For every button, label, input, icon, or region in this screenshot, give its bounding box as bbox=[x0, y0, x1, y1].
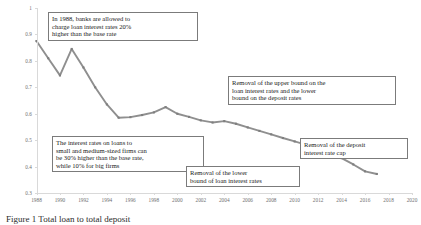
series-data-point bbox=[364, 170, 366, 172]
annotation-text-line: Removal of the upper bound on the bbox=[232, 79, 392, 87]
x-axis-tick-label: 1996 bbox=[125, 197, 136, 203]
y-axis-tick-mark bbox=[35, 140, 37, 141]
x-axis-tick-mark bbox=[271, 193, 272, 195]
series-data-point bbox=[352, 163, 354, 165]
series-data-point bbox=[106, 103, 108, 105]
y-axis-tick-label: 0.9 bbox=[0, 31, 32, 37]
x-axis-tick-mark bbox=[389, 193, 390, 195]
annotation-box-removal-lower-bound: Removal of the lowerbound of loan intere… bbox=[186, 166, 300, 187]
annotation-text-line: Removal of the lower bbox=[190, 169, 296, 177]
x-axis-tick-label: 2000 bbox=[172, 197, 183, 203]
x-axis-tick-label: 2008 bbox=[266, 197, 277, 203]
figure-caption: Figure 1 Total loan to total deposit bbox=[6, 214, 130, 224]
x-axis-tick-mark bbox=[365, 193, 366, 195]
series-data-point bbox=[129, 116, 131, 118]
x-axis-tick-label: 1998 bbox=[149, 197, 160, 203]
series-data-point bbox=[188, 116, 190, 118]
x-axis-tick-label: 2018 bbox=[383, 197, 394, 203]
y-axis-tick-label: 1 bbox=[0, 5, 32, 11]
y-axis-tick-mark bbox=[35, 167, 37, 168]
x-axis-tick-mark bbox=[224, 193, 225, 195]
x-axis-tick-mark bbox=[248, 193, 249, 195]
x-axis-tick-mark bbox=[37, 193, 38, 195]
y-axis-tick-label: 0.7 bbox=[0, 84, 32, 90]
series-data-point bbox=[258, 130, 260, 132]
x-axis-tick-mark bbox=[342, 193, 343, 195]
x-axis-tick-label: 2010 bbox=[289, 197, 300, 203]
series-data-point bbox=[211, 121, 213, 123]
annotation-text-line: loan interest rates and the lower bbox=[232, 87, 392, 95]
annotation-text-line: In 1988, banks are allowed to bbox=[52, 15, 194, 23]
x-axis-tick-label: 2002 bbox=[195, 197, 206, 203]
y-axis-tick-mark bbox=[35, 34, 37, 35]
x-axis-tick-mark bbox=[107, 193, 108, 195]
annotation-text-line: Removal of the deposit bbox=[304, 141, 404, 149]
series-data-point bbox=[141, 114, 143, 116]
x-axis-tick-label: 2004 bbox=[219, 197, 230, 203]
series-data-point bbox=[71, 48, 73, 50]
series-data-point bbox=[47, 57, 49, 59]
series-data-point bbox=[282, 137, 284, 139]
annotation-text-line: be 30% higher than the base rate, bbox=[56, 154, 200, 162]
x-axis-tick-mark bbox=[177, 193, 178, 195]
x-axis-tick-mark bbox=[412, 193, 413, 195]
x-axis-tick-mark bbox=[154, 193, 155, 195]
x-axis-tick-label: 2014 bbox=[336, 197, 347, 203]
x-axis-tick-label: 2016 bbox=[360, 197, 371, 203]
series-data-point bbox=[247, 126, 249, 128]
y-axis-tick-label: 0.4 bbox=[0, 164, 32, 170]
x-axis-tick-mark bbox=[83, 193, 84, 195]
annotation-box-removal-deposit-cap: Removal of the depositinterest rate cap bbox=[300, 138, 408, 159]
series-data-point bbox=[94, 86, 96, 88]
y-axis-tick-mark bbox=[35, 114, 37, 115]
y-axis-tick-label: 0.8 bbox=[0, 58, 32, 64]
x-axis-tick-label: 2020 bbox=[407, 197, 418, 203]
x-axis-tick-mark bbox=[201, 193, 202, 195]
annotation-text-line: small and medium-sized firms can bbox=[56, 147, 200, 155]
annotation-text-line: bound on the deposit rates bbox=[232, 94, 392, 102]
annotation-text-line: interest rate cap bbox=[304, 149, 404, 157]
x-axis-tick-label: 1994 bbox=[102, 197, 113, 203]
series-data-point bbox=[153, 111, 155, 113]
y-axis-tick-label: 0.5 bbox=[0, 137, 32, 143]
x-axis-tick-mark bbox=[60, 193, 61, 195]
annotation-text-line: charge loan interest rates 20% bbox=[52, 23, 194, 31]
annotation-box-removal-upper-bound: Removal of the upper bound on theloan in… bbox=[228, 76, 396, 105]
x-axis-tick-label: 1988 bbox=[31, 197, 42, 203]
series-data-point bbox=[165, 106, 167, 108]
x-axis-tick-mark bbox=[318, 193, 319, 195]
annotation-text-line: higher than the base rate bbox=[52, 30, 194, 38]
annotation-box-sme-loan-rate-premium: The interest rates on loans tosmall and … bbox=[52, 136, 204, 172]
series-data-point bbox=[376, 173, 378, 175]
series-data-point bbox=[176, 113, 178, 115]
annotation-text-line: while 10% for big firms bbox=[56, 162, 200, 170]
x-axis-tick-label: 1992 bbox=[78, 197, 89, 203]
x-axis-tick-label: 2006 bbox=[242, 197, 253, 203]
x-axis-tick-label: 1990 bbox=[55, 197, 66, 203]
y-axis-tick-label: 0.6 bbox=[0, 111, 32, 117]
series-data-point bbox=[82, 66, 84, 68]
y-axis-tick-mark bbox=[35, 61, 37, 62]
annotation-box-1988-loan-rate-premium: In 1988, banks are allowed tocharge loan… bbox=[48, 12, 198, 41]
series-data-point bbox=[59, 74, 61, 76]
series-data-point bbox=[235, 123, 237, 125]
series-data-point bbox=[270, 133, 272, 135]
x-axis-tick-mark bbox=[130, 193, 131, 195]
series-data-point bbox=[223, 120, 225, 122]
series-data-point bbox=[118, 117, 120, 119]
x-axis-tick-mark bbox=[295, 193, 296, 195]
y-axis-tick-label: 0.3 bbox=[0, 190, 32, 196]
y-axis-tick-mark bbox=[35, 8, 37, 9]
y-axis-tick-mark bbox=[35, 87, 37, 88]
series-data-point bbox=[294, 140, 296, 142]
series-data-point bbox=[200, 119, 202, 121]
y-axis-line bbox=[37, 8, 38, 193]
annotation-text-line: bound of loan interest rates bbox=[190, 177, 296, 185]
annotation-text-line: The interest rates on loans to bbox=[56, 139, 200, 147]
x-axis-tick-label: 2012 bbox=[313, 197, 324, 203]
figure-container: 0.30.40.50.60.70.80.91198819901992199419… bbox=[0, 0, 421, 225]
